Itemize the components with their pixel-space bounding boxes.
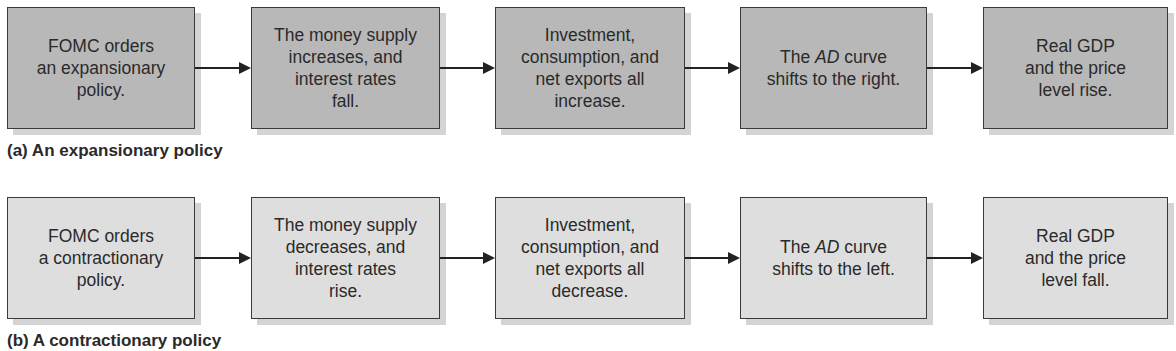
box-text: The money supply increases, and interest… [274, 24, 417, 112]
box-text: Investment, consumption, and net exports… [521, 214, 659, 302]
flow-box-spending-decreases: Investment, consumption, and net exports… [495, 197, 685, 319]
box-text-pre: The [780, 237, 815, 257]
right-arrow-icon [685, 257, 738, 259]
panel-a-caption: (a) An expansionary policy [7, 141, 223, 161]
flow-box-money-supply-increases: The money supply increases, and interest… [251, 7, 440, 129]
flow-box-ad-shifts-left: The AD curve shifts to the left. [740, 197, 927, 319]
right-arrow-icon [927, 67, 981, 69]
right-arrow-icon [440, 257, 493, 259]
right-arrow-icon [195, 257, 249, 259]
box-text: FOMC orders an expansionary policy. [37, 35, 165, 101]
box-text: FOMC orders a contractionary policy. [39, 225, 164, 291]
box-text: The AD curve shifts to the right. [767, 46, 900, 90]
flow-box-fomc-contractionary: FOMC orders a contractionary policy. [7, 197, 195, 319]
box-text-em: AD [815, 47, 839, 67]
flow-box-ad-shifts-right: The AD curve shifts to the right. [740, 7, 927, 129]
flow-box-money-supply-decreases: The money supply decreases, and interest… [251, 197, 440, 319]
right-arrow-icon [195, 67, 249, 69]
flow-box-spending-increases: Investment, consumption, and net exports… [495, 7, 685, 129]
right-arrow-icon [927, 257, 981, 259]
flow-box-fomc-expansionary: FOMC orders an expansionary policy. [7, 7, 195, 129]
box-text: The AD curve shifts to the left. [772, 236, 895, 280]
box-text: Investment, consumption, and net exports… [521, 24, 659, 112]
flow-box-gdp-price-fall: Real GDP and the price level fall. [983, 197, 1168, 319]
panel-b-caption: (b) A contractionary policy [7, 331, 221, 351]
panel-contractionary-flow: FOMC orders a contractionary policy. The… [0, 197, 1176, 321]
flow-box-gdp-price-rise: Real GDP and the price level rise. [983, 7, 1168, 129]
right-arrow-icon [685, 67, 738, 69]
box-text-pre: The [780, 47, 815, 67]
panel-expansionary-flow: FOMC orders an expansionary policy. The … [0, 7, 1176, 131]
box-text-em: AD [815, 237, 839, 257]
box-text: Real GDP and the price level fall. [1025, 225, 1126, 291]
box-text: The money supply decreases, and interest… [274, 214, 417, 302]
right-arrow-icon [440, 67, 493, 69]
box-text: Real GDP and the price level rise. [1025, 35, 1126, 101]
